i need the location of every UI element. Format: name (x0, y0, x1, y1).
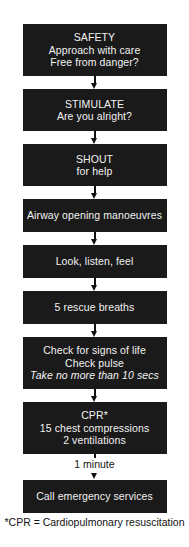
flow-row: 5 rescue breaths (0, 291, 189, 324)
flow-node-call-emergency: Call emergency services (23, 480, 167, 513)
flow-node-stimulate: STIMULATEAre you alright? (23, 89, 167, 131)
flow-node-airway: Airway opening manoeuvres (23, 199, 167, 232)
flow-node-airway-line-1: Airway opening manoeuvres (27, 209, 162, 221)
flow-node-safety-line-3: Free from danger? (50, 56, 139, 68)
flow-row: CPR*15 chest compressions2 ventilations (0, 402, 189, 454)
flow-node-shout-line-1: SHOUT (76, 153, 113, 165)
flow-node-call-emergency-line-1: Call emergency services (36, 490, 153, 502)
flow-node-safety-line-2: Approach with care (49, 44, 141, 56)
flow-node-rescue-breaths-line-1: 5 rescue breaths (55, 301, 135, 313)
flow-node-signs-of-life-line-2: Check pulse (65, 357, 124, 369)
flow-row: Look, listen, feel (0, 245, 189, 278)
flow-row: Check for signs of lifeCheck pulseTake n… (0, 337, 189, 389)
flow-node-safety: SAFETYApproach with careFree from danger… (23, 24, 167, 76)
flow-row: Airway opening manoeuvres (0, 199, 189, 232)
flow-node-signs-of-life-line-3: Take no more than 10 secs (30, 369, 159, 381)
flow-node-rescue-breaths: 5 rescue breaths (23, 291, 167, 324)
flow-node-signs-of-life-line-1: Check for signs of life (43, 344, 146, 356)
flowchart: SAFETYApproach with careFree from danger… (0, 0, 189, 547)
footnote: *CPR = Cardiopulmonary resuscitation (0, 516, 189, 528)
flow-row: Call emergency services (0, 480, 189, 513)
flow-node-safety-line-1: SAFETY (74, 31, 115, 43)
connector-arrow-shout-to-airway (0, 186, 189, 199)
connector-arrow-stimulate-to-shout (0, 131, 189, 144)
flow-node-cpr-line-3: 2 ventilations (63, 434, 126, 446)
connector-arrow-cpr-to-call-emergency: 1 minute (0, 454, 189, 480)
connector-arrow-safety-to-stimulate (0, 76, 189, 89)
flow-node-cpr-line-1: CPR* (81, 409, 108, 421)
flow-node-shout-line-2: for help (77, 165, 113, 177)
flow-node-cpr-line-2: 15 chest compressions (40, 422, 149, 434)
flow-node-look-listen-feel-line-1: Look, listen, feel (56, 255, 134, 267)
flow-row: SHOUTfor help (0, 144, 189, 186)
flow-row: SAFETYApproach with careFree from danger… (0, 24, 189, 76)
arrow-head-icon (91, 473, 97, 479)
connector-arrow-rescue-breaths-to-signs-of-life (0, 324, 189, 337)
flow-node-look-listen-feel: Look, listen, feel (23, 245, 167, 278)
connector-label-duration: 1 minute (0, 458, 189, 470)
flow-node-signs-of-life: Check for signs of lifeCheck pulseTake n… (23, 337, 167, 389)
flow-node-stimulate-line-1: STIMULATE (65, 98, 124, 110)
flow-node-shout: SHOUTfor help (23, 144, 167, 186)
flow-node-stimulate-line-2: Are you alright? (57, 110, 132, 122)
flow-row: STIMULATEAre you alright? (0, 89, 189, 131)
connector-arrow-airway-to-look-listen-feel (0, 232, 189, 245)
connector-arrow-signs-of-life-to-cpr (0, 389, 189, 402)
connector-arrow-look-listen-feel-to-rescue-breaths (0, 278, 189, 291)
flow-node-cpr: CPR*15 chest compressions2 ventilations (23, 402, 167, 454)
